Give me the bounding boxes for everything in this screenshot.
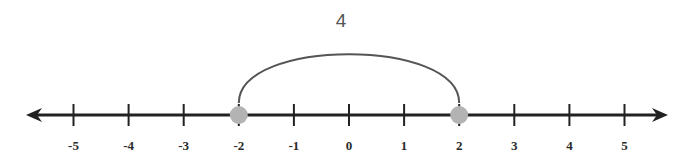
distance-arc: 4	[239, 10, 459, 103]
distance-arc-curve	[239, 54, 459, 103]
number-line-axis	[26, 108, 668, 122]
tick-label: 2	[456, 138, 463, 153]
tick-labels: -5-4-3-2-1012345	[68, 138, 628, 153]
tick-label: -2	[233, 138, 244, 153]
number-line-svg: -5-4-3-2-1012345 4	[0, 0, 695, 161]
point-marker	[450, 106, 468, 124]
number-line-diagram: -5-4-3-2-1012345 4	[0, 0, 695, 161]
tick-label: 1	[401, 138, 408, 153]
tick-label: -3	[178, 138, 189, 153]
tick-label: -1	[288, 138, 299, 153]
tick-label: 4	[566, 138, 573, 153]
distance-label: 4	[336, 10, 347, 31]
tick-label: 0	[346, 138, 353, 153]
tick-label: -5	[68, 138, 79, 153]
point-marker	[230, 106, 248, 124]
tick-label: 3	[511, 138, 518, 153]
tick-label: 5	[621, 138, 628, 153]
tick-label: -4	[123, 138, 134, 153]
